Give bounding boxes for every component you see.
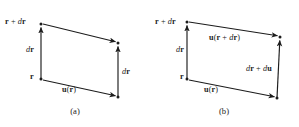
label-b-r-plus-dr: r + dr xyxy=(155,18,176,26)
arrow-dr-plus-du-right xyxy=(277,41,280,99)
figure-root: r + dr dr r dr u(r) (a) xyxy=(0,0,299,127)
panel-a: r + dr dr r dr u(r) (a) xyxy=(0,0,150,127)
caption-panel-a: (a) xyxy=(0,106,150,116)
vertex-dot-top-right xyxy=(117,42,120,45)
caption-panel-b: (b) xyxy=(149,106,299,116)
label-a-u-r: u(r) xyxy=(62,86,76,94)
label-a-dr-left: dr xyxy=(26,46,34,54)
arrow-u-r-top xyxy=(43,24,116,42)
label-b-u-r: u(r) xyxy=(204,86,218,94)
label-a-dr-right: dr xyxy=(122,68,130,76)
vertex-dot-r-plus-dr xyxy=(186,21,189,24)
vertex-dot-top-right xyxy=(279,36,282,39)
label-b-r: r xyxy=(180,73,184,81)
label-b-dr-left: dr xyxy=(176,46,184,54)
label-b-u-r-plus-dr: u(r + dr) xyxy=(209,34,240,42)
arrow-u-r-bottom xyxy=(43,80,116,96)
label-a-r-plus-dr: r + dr xyxy=(5,18,26,26)
panel-b: r + dr dr r u(r + dr) dr + du u(r) (b) xyxy=(149,0,299,127)
arrow-u-r-bottom xyxy=(189,80,275,97)
label-b-dr-plus-du: dr + du xyxy=(246,65,272,73)
label-a-r: r xyxy=(30,73,34,81)
vertex-dot-r-plus-dr xyxy=(40,23,43,26)
